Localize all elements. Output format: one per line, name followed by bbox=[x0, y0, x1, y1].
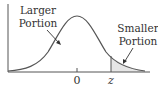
smaller-portion-arrowhead-icon bbox=[123, 59, 127, 64]
normal-distribution-figure: 0 z Larger Portion Smaller Portion bbox=[0, 0, 158, 90]
z-label: z bbox=[107, 74, 114, 87]
larger-portion-label-line2: Portion bbox=[19, 17, 58, 29]
zero-label: 0 bbox=[74, 74, 81, 87]
smaller-portion-label-line2: Portion bbox=[119, 35, 158, 47]
larger-portion-label-line1: Larger bbox=[20, 4, 57, 16]
smaller-portion-arrow bbox=[125, 48, 133, 61]
smaller-portion-label-line1: Smaller bbox=[117, 22, 158, 34]
